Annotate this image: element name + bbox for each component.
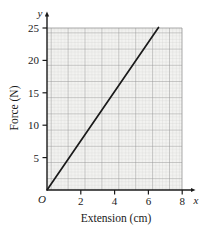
chart-svg: 25 20 15 10 5 2 4 6 8 O y x Extension (c… xyxy=(0,0,202,229)
x-tick-label-6: 6 xyxy=(146,195,152,207)
y-axis xyxy=(43,16,48,190)
x-tick-label-2: 2 xyxy=(78,195,84,207)
x-axis xyxy=(47,190,191,195)
y-tick-label-25: 25 xyxy=(28,22,40,34)
origin-label: O xyxy=(38,193,46,205)
y-tick-label-20: 20 xyxy=(28,54,40,66)
y-axis-variable-label: y xyxy=(37,7,43,19)
chart-gridlines xyxy=(47,28,182,190)
x-tick-label-8: 8 xyxy=(179,195,185,207)
y-tick-labels: 25 20 15 10 5 xyxy=(28,22,40,164)
y-tick-label-5: 5 xyxy=(34,152,40,164)
x-tick-label-4: 4 xyxy=(112,195,118,207)
y-tick-label-15: 15 xyxy=(28,87,40,99)
x-tick-labels: 2 4 6 8 xyxy=(78,195,185,207)
y-axis-title: Force (N) xyxy=(8,85,21,130)
x-axis-variable-label: x xyxy=(193,194,199,206)
x-axis-title: Extension (cm) xyxy=(81,212,152,225)
force-extension-chart: 25 20 15 10 5 2 4 6 8 O y x Extension (c… xyxy=(0,0,202,229)
y-tick-label-10: 10 xyxy=(28,119,40,131)
